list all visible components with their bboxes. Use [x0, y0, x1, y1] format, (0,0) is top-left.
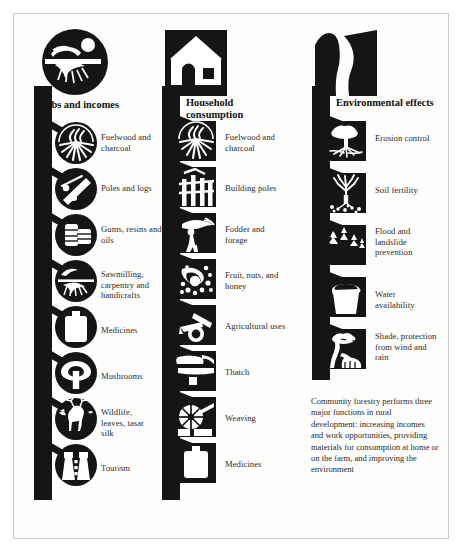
item-label-wildlife-leaves-tasar-silk: Wildlife, leaves, tasar silk	[101, 407, 155, 439]
column-1-header-icon	[42, 29, 108, 95]
column-3-icons	[326, 121, 366, 369]
column-heading-household-consumption: Household consumption	[186, 97, 282, 122]
item-label-agricultural-uses: Agricultural uses	[225, 321, 311, 332]
item-label-erosion-control: Erosion control	[375, 133, 433, 144]
item-label-fuelwood-and-charcoal-household: Fuelwood and charcoal	[225, 132, 295, 153]
infographic-board: Jobs and incomes Fuelwood and charcoal P…	[0, 0, 460, 550]
item-label-flood-and-landslide-prevention: Flood and landslide prevention	[375, 226, 435, 258]
item-label-poles-and-logs: Poles and logs	[101, 183, 171, 194]
summary-caption: Community forestry performs three major …	[311, 396, 439, 476]
item-label-shade-protection-from-wind-and-rain: Shade, protection from wind and rain	[375, 331, 437, 363]
item-label-mushrooms: Mushrooms	[101, 371, 167, 382]
item-label-weaving: Weaving	[225, 413, 291, 424]
item-label-water-availability: Water availability	[375, 289, 431, 310]
item-label-tourism: Tourism	[101, 463, 167, 474]
item-label-gums-resins-and-oils: Gums, resins and oils	[101, 224, 165, 245]
column-1-icons	[55, 122, 97, 486]
item-label-thatch: Thatch	[225, 367, 291, 378]
item-label-medicines-jobs: Medicines	[101, 325, 167, 336]
item-label-medicines-household: Medicines	[225, 459, 291, 470]
item-label-fruit-nuts-and-honey: Fruit, nuts, and honey	[225, 270, 287, 291]
item-label-fuelwood-and-charcoal-jobs: Fuelwood and charcoal	[101, 132, 167, 153]
column-2-header-icon	[165, 30, 227, 96]
column-heading-environmental-effects: Environmental effects	[336, 97, 444, 109]
item-label-sawmilling-carpentry-and-handicrafts: Sawmilling, carpentry and handicrafts	[101, 269, 163, 301]
column-3-header-icon	[315, 30, 377, 96]
item-label-building-poles: Building poles	[225, 183, 301, 194]
item-label-soil-fertility: Soil fertility	[375, 185, 425, 196]
item-label-fodder-and-forage: Fodder and forage	[225, 224, 287, 245]
column-heading-jobs-and-incomes: Jobs and incomes	[41, 99, 161, 111]
figure-page: Jobs and incomes Fuelwood and charcoal P…	[0, 0, 460, 550]
